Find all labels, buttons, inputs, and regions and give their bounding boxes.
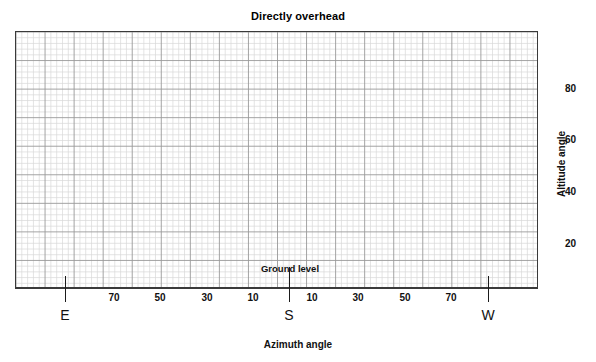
y-tick-label-60: 60 — [565, 134, 591, 145]
x-axis-line — [15, 288, 538, 289]
y-tick-label-20: 20 — [565, 238, 591, 249]
cardinal-tick-w — [488, 276, 489, 302]
y-tick-label-40: 40 — [565, 186, 591, 197]
ground-level-label: Ground level — [250, 263, 330, 274]
y-tick-label-80: 80 — [565, 83, 591, 94]
chart-title: Directly overhead — [0, 10, 596, 22]
chart-canvas: Directly overhead E S W Ground level 70 … — [0, 0, 596, 362]
cardinal-label-e: E — [53, 307, 77, 323]
plot-area — [15, 31, 538, 288]
grid-lines — [16, 32, 537, 287]
x-tick-label-1: 50 — [147, 292, 173, 303]
y-axis-title: Altitude angle — [556, 131, 567, 197]
grid-svg — [16, 32, 538, 288]
x-tick-label-7: 70 — [438, 292, 464, 303]
x-tick-label-4: 10 — [299, 292, 325, 303]
x-axis-title: Azimuth angle — [0, 339, 596, 350]
x-tick-label-2: 30 — [194, 292, 220, 303]
cardinal-label-s: S — [277, 307, 301, 323]
cardinal-label-w: W — [476, 307, 500, 323]
x-tick-label-6: 50 — [392, 292, 418, 303]
x-tick-label-0: 70 — [101, 292, 127, 303]
cardinal-tick-e — [65, 276, 66, 302]
x-tick-label-5: 30 — [345, 292, 371, 303]
x-tick-label-3: 10 — [240, 292, 266, 303]
